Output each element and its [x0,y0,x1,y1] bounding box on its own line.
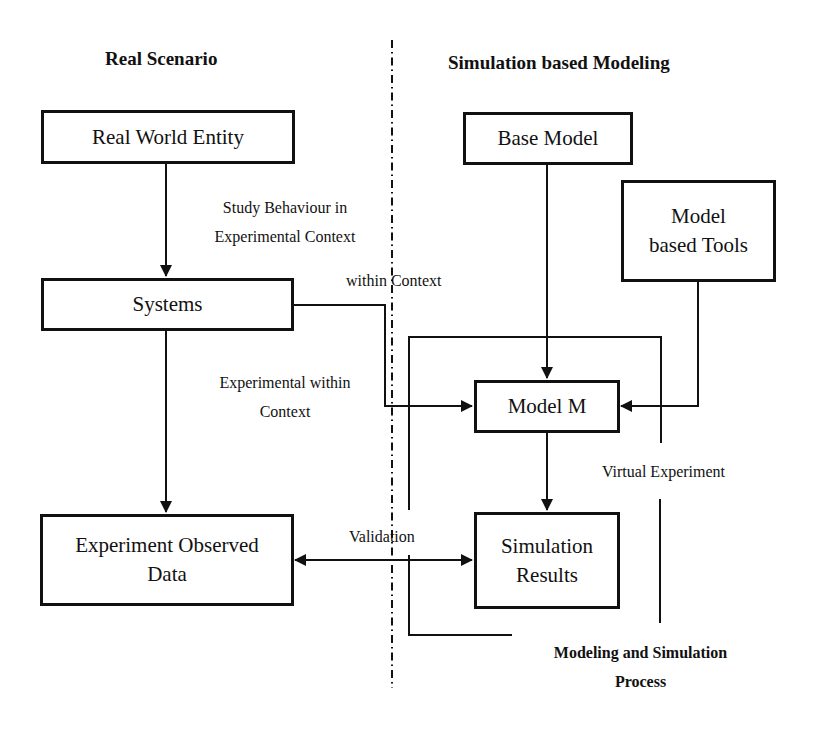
box-base-model: Base Model [463,112,633,165]
heading-real-scenario: Real Scenario [105,48,217,70]
box-label-line2: Data [147,560,187,589]
box-label: Model M [508,392,587,421]
label-within-context: within Context [346,266,442,295]
label-experimental-within-context: Experimental within Context [205,368,365,426]
box-label: Base Model [498,124,599,153]
label-virtual-experiment: Virtual Experiment [602,457,725,486]
box-label-line1: Experiment Observed [75,531,259,560]
label-validation: Validation [349,522,415,551]
label-modeling-simulation-process: Modeling and Simulation Process [528,638,753,696]
box-label-line1: Simulation [501,532,593,561]
label-study-behaviour: Study Behaviour in Experimental Context [200,193,370,251]
box-model-based-tools: Model based Tools [621,180,776,282]
heading-simulation-based-modeling: Simulation based Modeling [448,52,670,74]
box-experiment-observed-data: Experiment Observed Data [40,514,294,606]
box-label-line1: Model [671,202,726,231]
box-systems: Systems [41,278,294,331]
box-label-line2: Results [516,561,578,590]
box-label-line2: based Tools [649,231,748,260]
box-label: Systems [132,290,202,319]
box-model-m: Model M [474,380,620,433]
box-simulation-results: Simulation Results [474,512,620,609]
box-label: Real World Entity [92,123,244,152]
box-real-world-entity: Real World Entity [41,110,295,164]
arrow-tools-to-model [621,281,698,406]
